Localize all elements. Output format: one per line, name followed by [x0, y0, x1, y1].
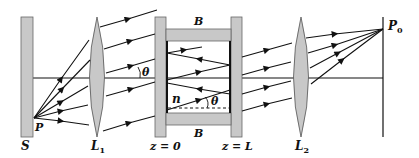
label-theta-outside: θ — [142, 66, 150, 79]
lens-l2 — [294, 17, 309, 137]
label-source-point: P — [34, 121, 44, 134]
angle-arc-inside — [205, 97, 208, 108]
label-focus-point: P0 — [387, 19, 403, 35]
spacer-block-top — [166, 29, 231, 41]
label-n: n — [172, 92, 181, 106]
label-block-bottom: B — [193, 127, 203, 140]
lens-l1 — [90, 17, 105, 137]
source-screen — [21, 17, 33, 137]
plate-z0 — [155, 17, 166, 137]
label-screen-s: S — [21, 139, 30, 153]
rays-plate-to-l2 — [242, 43, 292, 111]
rays-source-to-l1 — [34, 40, 90, 125]
label-theta-inside: θ — [211, 95, 219, 108]
rays-l2-to-focus — [306, 29, 383, 84]
fabry-perot-diagram: θ θ n B B P S L1 z = 0 z = L L2 P0 — [0, 0, 419, 158]
label-block-top: B — [193, 15, 203, 28]
label-lens-l2: L2 — [294, 139, 309, 155]
label-lens-l1: L1 — [90, 139, 105, 155]
label-plate-z0: z = 0 — [149, 140, 181, 153]
spacer-block-bottom — [166, 113, 231, 125]
angle-arc-outside — [138, 67, 140, 78]
label-plate-zL: z = L — [221, 140, 253, 153]
plate-zL — [231, 17, 242, 137]
